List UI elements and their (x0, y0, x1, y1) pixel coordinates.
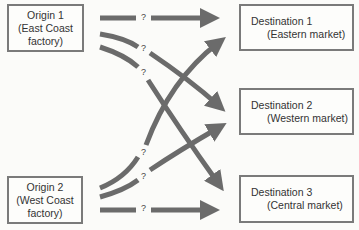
route-arrows (0, 0, 359, 230)
route-o2-d2 (100, 128, 218, 197)
route-label-o1-d2: ? (141, 43, 146, 53)
route-label-o1-d3: ? (141, 67, 146, 77)
route-label-o2-d3: ? (141, 203, 146, 213)
route-label-o1-d1: ? (141, 12, 146, 22)
route-label-o2-d2: ? (141, 171, 146, 181)
route-label-o2-d1: ? (141, 147, 146, 157)
